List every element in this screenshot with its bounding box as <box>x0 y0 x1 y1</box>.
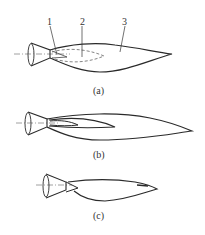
nozzle-icon <box>25 112 47 135</box>
nozzle-icon <box>28 43 50 66</box>
flame-tip-mark <box>137 185 148 186</box>
caption-b: (b) <box>93 149 105 161</box>
inner-cone-zone <box>66 182 78 192</box>
leader-line-1 <box>50 26 57 55</box>
flame-shape-diagram: 1 2 3 (a) (b) (c) <box>0 0 205 235</box>
panel-c: (c) <box>36 174 157 222</box>
callout-3: 3 <box>122 16 127 27</box>
leader-line-3 <box>120 26 125 52</box>
inner-cone-zone <box>52 51 67 58</box>
outer-flame-zone <box>50 44 172 72</box>
caption-c: (c) <box>93 210 104 222</box>
outer-flame-zone <box>68 180 157 201</box>
callout-1: 1 <box>47 16 52 27</box>
panel-a: 1 2 3 (a) <box>14 16 172 97</box>
panel-b: (b) <box>16 112 192 161</box>
middle-flame-zone <box>49 118 115 127</box>
callout-2: 2 <box>80 16 85 27</box>
nozzle-icon <box>43 174 66 198</box>
middle-flame-zone <box>52 49 104 62</box>
caption-a: (a) <box>93 85 104 97</box>
